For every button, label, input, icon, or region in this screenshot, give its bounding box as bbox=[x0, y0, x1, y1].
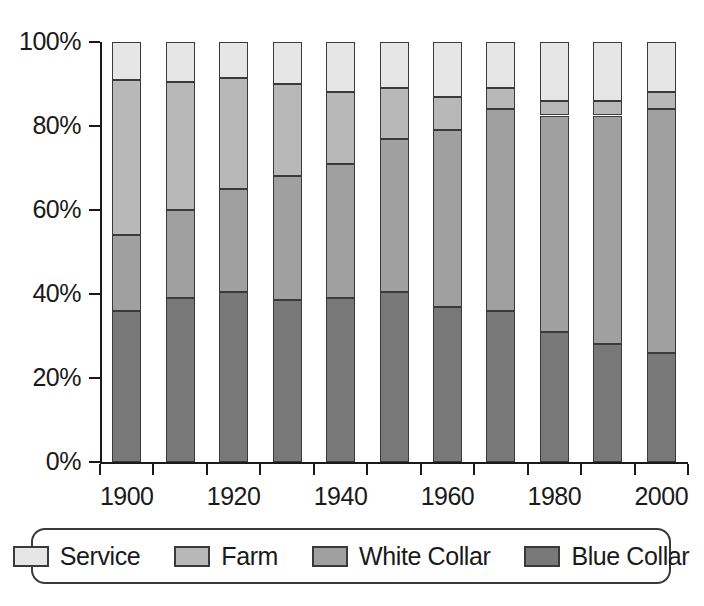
x-axis-label-1940: 1940 bbox=[291, 484, 391, 509]
x-axis-label-1960: 1960 bbox=[397, 484, 497, 509]
bar-segment-blue-collar bbox=[433, 307, 462, 462]
bar-segment-service bbox=[433, 42, 462, 97]
bar-segment-service bbox=[540, 42, 569, 101]
x-axis-tick bbox=[634, 464, 636, 475]
x-axis-tick bbox=[206, 464, 208, 475]
bar-segment-blue-collar bbox=[166, 298, 195, 462]
bar-segment-farm bbox=[540, 101, 569, 116]
x-axis-label-2000: 2000 bbox=[611, 484, 704, 509]
x-axis-tick bbox=[313, 464, 315, 475]
bar-segment-service bbox=[486, 42, 515, 88]
x-axis-tick bbox=[259, 464, 261, 475]
legend-label: Farm bbox=[221, 544, 278, 569]
bar-segment-service bbox=[112, 42, 141, 80]
bar-segment-white-collar bbox=[593, 116, 622, 345]
x-axis-tick bbox=[366, 464, 368, 475]
bar-1900 bbox=[112, 42, 141, 462]
x-axis-tick bbox=[473, 464, 475, 475]
bar-1950 bbox=[380, 42, 409, 462]
bar-segment-farm bbox=[647, 92, 676, 109]
bar-segment-white-collar bbox=[486, 109, 515, 311]
bar-segment-blue-collar bbox=[380, 292, 409, 462]
legend-swatch-icon bbox=[13, 546, 49, 567]
bar-segment-service bbox=[166, 42, 195, 82]
bar-segment-farm bbox=[166, 82, 195, 210]
bar-segment-white-collar bbox=[326, 164, 355, 298]
bar-segment-white-collar bbox=[273, 176, 302, 300]
bar-segment-farm bbox=[380, 88, 409, 138]
bar-segment-service bbox=[380, 42, 409, 88]
bar-segment-farm bbox=[219, 78, 248, 189]
bar-segment-service bbox=[326, 42, 355, 92]
bar-segment-farm bbox=[326, 92, 355, 163]
legend-swatch-icon bbox=[174, 546, 210, 567]
bar-segment-white-collar bbox=[380, 139, 409, 292]
x-axis-label-1900: 1900 bbox=[77, 484, 177, 509]
x-axis-tick bbox=[580, 464, 582, 475]
legend-item-service[interactable]: Service bbox=[13, 544, 141, 569]
bar-segment-white-collar bbox=[112, 235, 141, 311]
chart-legend: ServiceFarmWhite CollarBlue Collar bbox=[31, 528, 671, 584]
x-axis-tick bbox=[152, 464, 154, 475]
bar-segment-blue-collar bbox=[326, 298, 355, 462]
bar-segment-white-collar bbox=[647, 109, 676, 353]
bar-segment-service bbox=[273, 42, 302, 84]
x-axis-tick bbox=[687, 464, 689, 475]
bar-segment-white-collar bbox=[166, 210, 195, 298]
x-axis-label-1980: 1980 bbox=[504, 484, 604, 509]
bar-segment-blue-collar bbox=[112, 311, 141, 462]
x-axis-label-1920: 1920 bbox=[184, 484, 284, 509]
bar-1960 bbox=[433, 42, 462, 462]
bar-segment-farm bbox=[486, 88, 515, 109]
bar-1910 bbox=[166, 42, 195, 462]
bar-segment-farm bbox=[593, 101, 622, 116]
x-axis-line bbox=[100, 462, 688, 464]
x-axis-tick bbox=[99, 464, 101, 475]
bar-segment-blue-collar bbox=[219, 292, 248, 462]
bar-segment-service bbox=[219, 42, 248, 78]
legend-label: White Collar bbox=[359, 544, 490, 569]
bar-1920 bbox=[219, 42, 248, 462]
bar-segment-service bbox=[647, 42, 676, 92]
legend-item-blue-collar[interactable]: Blue Collar bbox=[524, 544, 689, 569]
x-axis-tick bbox=[527, 464, 529, 475]
bar-segment-farm bbox=[433, 97, 462, 131]
legend-label: Service bbox=[60, 544, 141, 569]
bar-segment-farm bbox=[273, 84, 302, 176]
bar-2000 bbox=[647, 42, 676, 462]
bar-segment-service bbox=[593, 42, 622, 101]
bar-1980 bbox=[540, 42, 569, 462]
legend-label: Blue Collar bbox=[571, 544, 689, 569]
x-axis-tick bbox=[420, 464, 422, 475]
plot-area: 0%20%40%60%80%100% 190019201940196019802… bbox=[0, 0, 704, 510]
bar-segment-blue-collar bbox=[647, 353, 676, 462]
legend-swatch-icon bbox=[524, 546, 560, 567]
legend-item-white-collar[interactable]: White Collar bbox=[312, 544, 490, 569]
bar-segment-blue-collar bbox=[273, 300, 302, 462]
bar-segment-blue-collar bbox=[540, 332, 569, 462]
bar-1990 bbox=[593, 42, 622, 462]
bar-segment-blue-collar bbox=[593, 344, 622, 462]
bar-segment-white-collar bbox=[540, 116, 569, 332]
stacked-bar-chart: 0%20%40%60%80%100% 190019201940196019802… bbox=[0, 0, 704, 606]
bar-segment-farm bbox=[112, 80, 141, 235]
bar-1930 bbox=[273, 42, 302, 462]
bar-segment-white-collar bbox=[219, 189, 248, 292]
bar-segment-blue-collar bbox=[486, 311, 515, 462]
bar-1970 bbox=[486, 42, 515, 462]
legend-swatch-icon bbox=[312, 546, 348, 567]
bar-segment-white-collar bbox=[433, 130, 462, 306]
bar-1940 bbox=[326, 42, 355, 462]
bars-area bbox=[0, 0, 704, 510]
legend-item-farm[interactable]: Farm bbox=[174, 544, 278, 569]
